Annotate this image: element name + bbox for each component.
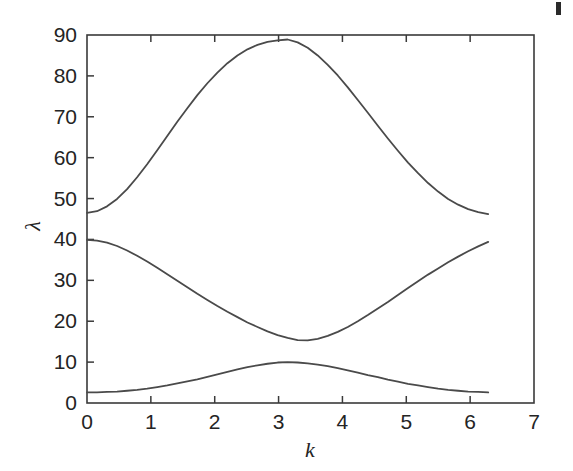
series-branch-2-middle	[87, 240, 488, 341]
y-tick-label: 10	[54, 350, 77, 373]
x-tick-label: 1	[145, 410, 157, 433]
x-tick-label: 7	[528, 410, 540, 433]
y-tick-label: 50	[54, 187, 77, 210]
chart-page: 0102030405060708090 01234567 k λ	[0, 0, 573, 471]
x-tick-label: 3	[273, 410, 285, 433]
series-branch-3-upper	[87, 40, 488, 215]
x-tick-label: 0	[81, 410, 93, 433]
y-tick-label: 60	[54, 146, 77, 169]
y-tick-label: 40	[54, 227, 77, 250]
y-tick-label: 0	[65, 391, 77, 414]
series-branch-1-lower	[87, 362, 488, 392]
data-series-group	[87, 40, 488, 393]
y-tick-label: 70	[54, 105, 77, 128]
x-tick-label: 2	[209, 410, 221, 433]
x-axis-ticks	[151, 35, 470, 403]
y-axis-ticks	[87, 76, 94, 362]
y-tick-label: 90	[54, 23, 77, 46]
y-axis-tick-labels: 0102030405060708090	[54, 23, 77, 414]
y-axis-title: λ	[20, 221, 45, 232]
y-tick-label: 80	[54, 64, 77, 87]
x-tick-label: 5	[400, 410, 412, 433]
x-tick-label: 4	[337, 410, 349, 433]
x-axis-tick-labels: 01234567	[81, 410, 540, 433]
y-tick-label: 20	[54, 309, 77, 332]
x-axis-title: k	[305, 437, 316, 462]
plot-frame	[87, 35, 534, 403]
line-chart-figure: 0102030405060708090 01234567 k λ	[0, 0, 573, 471]
x-tick-label: 6	[464, 410, 476, 433]
y-tick-label: 30	[54, 268, 77, 291]
